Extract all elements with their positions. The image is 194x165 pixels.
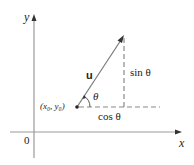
sin-label: sin θ bbox=[130, 67, 151, 78]
x-axis-arrow-icon bbox=[175, 130, 182, 135]
vector-arrow-icon bbox=[118, 35, 125, 43]
x-axis-label: x bbox=[179, 137, 184, 149]
vector-label: u bbox=[86, 70, 93, 81]
y-axis-label: y bbox=[24, 11, 29, 23]
unit-vector-diagram: y x 0 u (x₀, y₀) θ sin θ cos θ bbox=[0, 0, 194, 165]
cos-label: cos θ bbox=[98, 111, 121, 122]
angle-label: θ bbox=[93, 91, 98, 102]
start-point-label: (x₀, y₀) bbox=[40, 102, 65, 111]
origin-label: 0 bbox=[24, 135, 30, 146]
start-point bbox=[75, 105, 79, 109]
y-axis-arrow-icon bbox=[32, 14, 37, 21]
